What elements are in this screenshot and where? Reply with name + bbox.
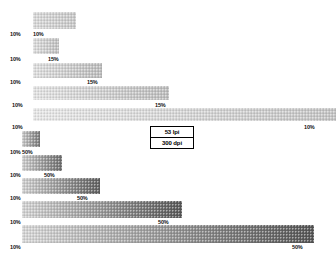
bar-row [33,38,59,54]
bar-row [33,108,336,121]
bar-end-tint-label: 15% [155,102,166,109]
gradient-bar [22,131,40,147]
gradient-bar [22,155,62,171]
bar-end-tint-label: 10% [33,31,44,38]
bar-row [22,225,314,243]
bar-row [22,131,40,147]
bar-start-tint-label: 10% [10,244,21,251]
gradient-bar [33,63,102,78]
bar-row [33,12,76,29]
bar-row [22,178,100,194]
halftone-gradient-chart: 10%10%10%15%10%15%10%15%10%10%10%50%10%5… [0,0,336,272]
bar-end-tint-label: 50% [44,172,55,179]
bar-end-tint-label: 50% [292,244,303,251]
bar-start-tint-label: 10% [12,124,23,131]
output-resolution-label: 300 dpi [151,137,193,148]
bar-start-tint-label: 10% [10,56,21,63]
bar-end-tint-label: 10% [304,124,315,131]
screen-ruling-label: 53 lpi [151,127,193,137]
bar-start-tint-label: 10% [10,149,21,156]
bar-end-tint-label: 50% [77,195,88,202]
gradient-bar [22,178,100,194]
bar-end-tint-label: 50% [158,219,169,226]
bar-row [22,201,182,218]
bar-start-tint-label: 10% [12,102,23,109]
spec-callout-box: 53 lpi 300 dpi [150,126,194,149]
bar-end-tint-label: 15% [48,56,59,63]
bar-row [33,86,169,100]
gradient-bar [22,225,314,243]
gradient-bar [22,201,182,218]
gradient-bar [33,108,336,121]
bar-row [33,63,102,78]
gradient-bar [33,86,169,100]
bar-end-tint-label: 50% [22,149,33,156]
bar-row [22,155,62,171]
bar-start-tint-label: 10% [10,195,21,202]
gradient-bar [33,38,59,54]
bar-start-tint-label: 10% [10,31,21,38]
bar-end-tint-label: 15% [87,79,98,86]
bar-start-tint-label: 10% [10,172,21,179]
gradient-bar [33,12,76,29]
bar-start-tint-label: 10% [10,79,21,86]
bar-start-tint-label: 10% [10,219,21,226]
